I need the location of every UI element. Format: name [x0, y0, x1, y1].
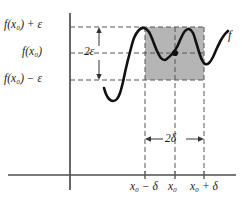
label-2delta: 2δ: [165, 133, 176, 145]
label-x0: x₀: [168, 181, 177, 193]
figure-canvas: [0, 0, 245, 205]
label-center-fx0: f(x₀): [22, 46, 42, 58]
label-lower-epsilon-text: f(x₀) − ε: [4, 72, 42, 84]
label-lower-epsilon: f(x₀) − ε: [4, 73, 42, 85]
label-x0-plus-delta: x₀ + δ: [190, 181, 218, 193]
label-x0-text: x₀: [168, 180, 177, 192]
epsilon-delta-figure: f(x₀) + ε f(x₀) f(x₀) − ε 2ε 2δ x₀ − δ x…: [0, 0, 245, 205]
label-upper-epsilon: f(x₀) + ε: [4, 19, 42, 31]
label-2epsilon-text: 2ε: [84, 45, 94, 57]
label-function-f-text: f: [228, 28, 231, 42]
label-2epsilon: 2ε: [84, 46, 94, 58]
label-2delta-text: 2δ: [165, 132, 176, 144]
point-x0-fx0: [172, 50, 178, 56]
label-upper-epsilon-text: f(x₀) + ε: [4, 18, 42, 30]
label-x0-minus-delta: x₀ − δ: [130, 181, 158, 193]
label-function-f: f: [228, 29, 231, 42]
label-center-fx0-text: f(x₀): [22, 45, 42, 57]
label-x0-minus-delta-text: x₀ − δ: [130, 180, 158, 192]
label-x0-plus-delta-text: x₀ + δ: [190, 180, 218, 192]
